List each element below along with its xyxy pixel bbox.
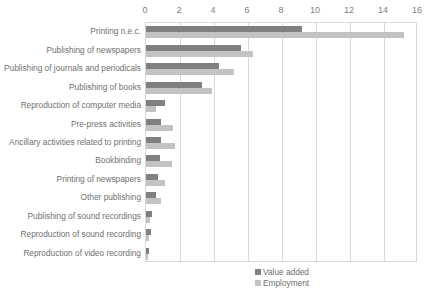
bar-group-7 (146, 155, 416, 167)
bar-group-11 (146, 229, 416, 241)
bar-group-4 (146, 100, 416, 112)
legend-swatch-icon-1 (255, 280, 261, 286)
bar-employment-1 (146, 51, 253, 57)
x-tick-label-5: 10 (310, 5, 320, 15)
bar-employment-0 (146, 32, 404, 38)
bar-employment-4 (146, 106, 156, 112)
legend-label-0: Value added (263, 267, 309, 277)
legend-item-0[interactable]: Value added (255, 266, 385, 277)
x-tick-label-4: 8 (278, 5, 283, 15)
bar-employment-9 (146, 198, 161, 204)
bar-employment-3 (146, 88, 212, 94)
bar-employment-5 (146, 125, 173, 131)
bar-group-3 (146, 82, 416, 94)
bar-employment-12 (146, 254, 148, 260)
legend-label-1: Employment (263, 278, 309, 288)
bar-employment-7 (146, 161, 172, 167)
bar-group-5 (146, 119, 416, 131)
plot-area (145, 22, 417, 262)
bar-employment-11 (146, 235, 149, 241)
legend-item-1[interactable]: Employment (255, 277, 385, 288)
category-label-4: Reproduction of computer media (21, 99, 141, 111)
category-label-7: Bookbinding (95, 154, 141, 166)
bar-chart: 0246810121416 Printing n.e.c.Publishing … (0, 0, 429, 294)
chart-legend: Value addedEmployment (255, 266, 385, 288)
bar-group-10 (146, 211, 416, 223)
clipped-header-text (0, 0, 429, 3)
x-tick-label-2: 4 (210, 5, 215, 15)
category-label-10: Publishing of sound recordings (28, 210, 141, 222)
bar-group-12 (146, 248, 416, 260)
bar-group-1 (146, 45, 416, 57)
bar-group-9 (146, 192, 416, 204)
category-label-0: Printing n.e.c. (90, 25, 141, 37)
x-tick-label-6: 12 (344, 5, 354, 15)
category-label-3: Publishing of books (69, 81, 141, 93)
x-tick-label-0: 0 (142, 5, 147, 15)
bar-group-6 (146, 137, 416, 149)
y-axis-category-labels: Printing n.e.c.Publishing of newspapersP… (0, 22, 141, 262)
category-label-1: Publishing of newspapers (46, 44, 141, 56)
bar-employment-2 (146, 69, 234, 75)
category-label-2: Publishing of journals and periodicals (4, 62, 141, 74)
bar-group-0 (146, 26, 416, 38)
category-label-9: Other publishing (81, 191, 141, 203)
legend-swatch-icon-0 (255, 269, 261, 275)
x-axis-tick-labels: 0246810121416 (145, 5, 417, 18)
bar-employment-10 (146, 217, 150, 223)
x-tick-label-8: 16 (412, 5, 422, 15)
x-tick-label-3: 6 (244, 5, 249, 15)
bar-employment-8 (146, 180, 165, 186)
category-label-11: Reproduction of sound recording (21, 228, 141, 240)
bar-group-2 (146, 63, 416, 75)
category-label-12: Reproduction of video recording (23, 247, 141, 259)
category-label-5: Pre-press activities (71, 118, 141, 130)
x-tick-label-1: 2 (176, 5, 181, 15)
category-label-6: Ancillary activities related to printing (9, 136, 141, 148)
bar-employment-6 (146, 143, 175, 149)
x-tick-label-7: 14 (378, 5, 388, 15)
category-label-8: Printing of newspapers (57, 173, 141, 185)
bar-group-8 (146, 174, 416, 186)
